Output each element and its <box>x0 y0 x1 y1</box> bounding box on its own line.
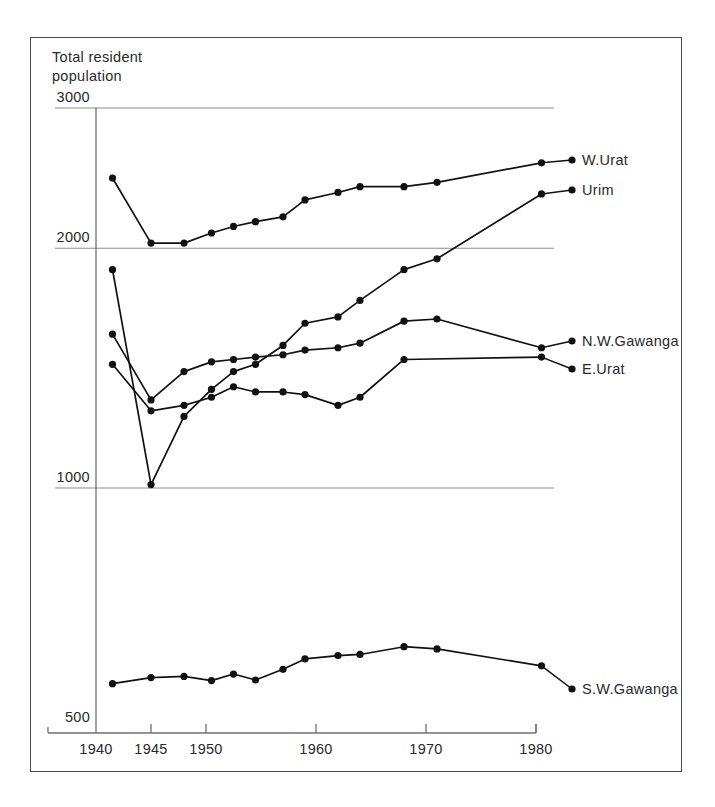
data-point <box>356 297 363 304</box>
data-point <box>230 223 237 230</box>
gridlines-group <box>55 108 554 488</box>
data-point <box>109 266 116 273</box>
series-label-S.W.Gawanga: S.W.Gawanga <box>582 681 679 697</box>
data-point <box>109 331 116 338</box>
series-label-W.Urat: W.Urat <box>582 152 628 168</box>
series-line-Urim <box>113 194 542 485</box>
data-point <box>433 255 440 262</box>
data-point <box>180 239 187 246</box>
leader-line-Urim <box>542 190 573 194</box>
data-point <box>180 402 187 409</box>
data-point <box>356 340 363 347</box>
data-point <box>147 396 154 403</box>
xtick-labels-group: 194019451950196019701980 <box>79 724 552 757</box>
data-point <box>400 266 407 273</box>
data-point <box>180 413 187 420</box>
data-point <box>252 388 259 395</box>
series-line-S.W.Gawanga <box>113 647 542 684</box>
data-point <box>147 674 154 681</box>
data-point <box>109 174 116 181</box>
data-point <box>208 386 215 393</box>
data-point <box>230 670 237 677</box>
data-point <box>208 358 215 365</box>
xtick-label-1945: 1945 <box>134 741 167 757</box>
data-point <box>356 394 363 401</box>
legend-marker-W.Urat <box>568 156 575 163</box>
data-point <box>279 213 286 220</box>
series-line-W.Urat <box>113 163 542 243</box>
leader-line-W.Urat <box>542 160 573 163</box>
ytick-label-2000: 2000 <box>57 229 90 245</box>
xtick-label-1940: 1940 <box>79 741 112 757</box>
series-line-E.Urat <box>113 357 542 411</box>
data-point <box>279 388 286 395</box>
data-point <box>230 383 237 390</box>
data-point <box>334 402 341 409</box>
data-point <box>279 351 286 358</box>
data-point <box>109 361 116 368</box>
legend-marker-E.Urat <box>568 365 575 372</box>
legend-marker-N.W.Gawanga <box>568 337 575 344</box>
xtick-label-1970: 1970 <box>409 741 442 757</box>
data-point <box>433 315 440 322</box>
xtick-label-1950: 1950 <box>189 741 222 757</box>
data-point <box>252 361 259 368</box>
data-point <box>356 183 363 190</box>
data-point <box>208 229 215 236</box>
ytick-labels-group: 300020001000500 <box>57 89 90 725</box>
data-point <box>334 189 341 196</box>
series-label-N.W.Gawanga: N.W.Gawanga <box>582 333 679 349</box>
series-group <box>109 159 545 687</box>
data-point <box>301 346 308 353</box>
axes-group <box>48 108 536 733</box>
data-point <box>400 643 407 650</box>
data-point <box>147 239 154 246</box>
data-point <box>433 645 440 652</box>
data-point <box>356 651 363 658</box>
data-point <box>230 368 237 375</box>
data-point <box>208 394 215 401</box>
xtick-label-1960: 1960 <box>299 741 332 757</box>
data-point <box>279 342 286 349</box>
data-point <box>334 344 341 351</box>
series-label-E.Urat: E.Urat <box>582 361 625 377</box>
data-point <box>180 368 187 375</box>
data-point <box>109 680 116 687</box>
data-point <box>301 391 308 398</box>
leader-line-S.W.Gawanga <box>542 666 573 689</box>
series-line-N.W.Gawanga <box>113 319 542 400</box>
legend-marker-Urim <box>568 186 575 193</box>
ytick-label-500: 500 <box>65 709 90 725</box>
data-point <box>334 652 341 659</box>
data-point <box>400 183 407 190</box>
series-label-Urim: Urim <box>582 182 614 198</box>
data-point <box>180 673 187 680</box>
ytick-label-3000: 3000 <box>57 89 90 105</box>
data-point <box>208 677 215 684</box>
data-point <box>400 356 407 363</box>
xtick-label-1980: 1980 <box>519 741 552 757</box>
data-point <box>252 218 259 225</box>
chart-canvas: 300020001000500 194019451950196019701980… <box>0 0 715 807</box>
legend-marker-S.W.Gawanga <box>568 685 575 692</box>
data-point <box>334 313 341 320</box>
leader-line-N.W.Gawanga <box>542 341 573 348</box>
data-point <box>301 320 308 327</box>
data-point <box>147 481 154 488</box>
data-point <box>433 179 440 186</box>
leader-line-E.Urat <box>542 357 573 369</box>
data-point <box>252 354 259 361</box>
figure-root: Total resident population 30002000100050… <box>0 0 715 807</box>
data-point <box>230 356 237 363</box>
data-point <box>279 666 286 673</box>
data-point <box>301 655 308 662</box>
data-point <box>147 407 154 414</box>
data-point <box>252 676 259 683</box>
ytick-label-1000: 1000 <box>57 469 90 485</box>
data-point <box>301 196 308 203</box>
data-point <box>400 318 407 325</box>
series-labels-group: W.UratUrimN.W.GawangaE.UratS.W.Gawanga <box>542 152 680 697</box>
